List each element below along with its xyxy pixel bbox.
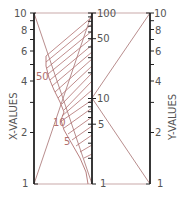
diagonal-mid-to-right-top: [92, 13, 150, 98]
right-tick-8: 8: [155, 25, 161, 36]
curve-label-50: 50: [36, 71, 49, 82]
right-tick-2: 2: [155, 127, 161, 138]
middle-tick-10: 10: [97, 93, 110, 104]
middle-tick-50: 50: [97, 33, 110, 44]
left-tick-6: 6: [21, 46, 27, 57]
left-tick-1: 1: [22, 178, 28, 189]
right-axis: [146, 13, 154, 184]
middle-axis: [88, 13, 96, 184]
nomograph: 50 10 5 1 2 4 6 8 10 X-VALUES: [0, 0, 182, 198]
right-tick-6: 6: [155, 46, 161, 57]
curve-label-10: 10: [53, 117, 66, 128]
left-tick-4: 4: [21, 76, 27, 87]
left-axis-title: X-VALUES: [8, 93, 19, 140]
left-tick-8: 8: [21, 25, 27, 36]
middle-tick-1: 1: [100, 178, 106, 189]
left-axis: [30, 13, 38, 184]
middle-tick-5: 5: [98, 119, 104, 130]
right-tick-10: 10: [154, 8, 167, 19]
left-tick-10: 10: [14, 8, 27, 19]
right-tick-4: 4: [155, 76, 161, 87]
left-tick-2: 2: [21, 127, 27, 138]
middle-tick-100: 100: [97, 8, 116, 19]
diagonal-mid-to-right-bottom: [92, 98, 150, 184]
right-axis-title: Y-VALUES: [167, 94, 178, 141]
curve-label-5: 5: [64, 136, 70, 147]
right-tick-1: 1: [157, 178, 163, 189]
